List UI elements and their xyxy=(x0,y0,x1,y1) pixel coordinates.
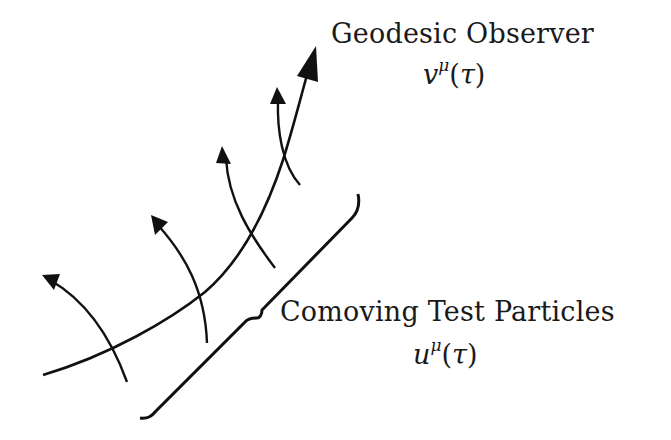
observer-symbol-sup: μ xyxy=(438,55,449,75)
observer-symbol: vμ(τ) xyxy=(423,58,485,90)
close-paren: ) xyxy=(467,339,478,370)
open-paren: ( xyxy=(441,339,452,370)
particles-symbol-base: u xyxy=(413,339,430,370)
observer-symbol-base: v xyxy=(423,59,438,90)
observer-symbol-arg: τ xyxy=(460,59,475,90)
particles-symbol: uμ(τ) xyxy=(413,338,477,370)
particle-worldline-1 xyxy=(42,274,127,382)
particles-symbol-sup: μ xyxy=(430,335,441,355)
close-paren: ) xyxy=(475,59,486,90)
large-arrowhead-icon xyxy=(297,46,318,82)
particles-label: Comoving Test Particles xyxy=(280,296,615,327)
open-paren: ( xyxy=(449,59,460,90)
particles-symbol-arg: τ xyxy=(452,339,467,370)
arrowhead-icon xyxy=(270,87,286,104)
arrowhead-icon xyxy=(42,274,60,290)
arrowhead-icon xyxy=(216,146,231,164)
observer-label: Geodesic Observer xyxy=(331,18,594,49)
particle-worldline-4 xyxy=(270,87,300,185)
spacetime-diagram xyxy=(0,0,671,440)
